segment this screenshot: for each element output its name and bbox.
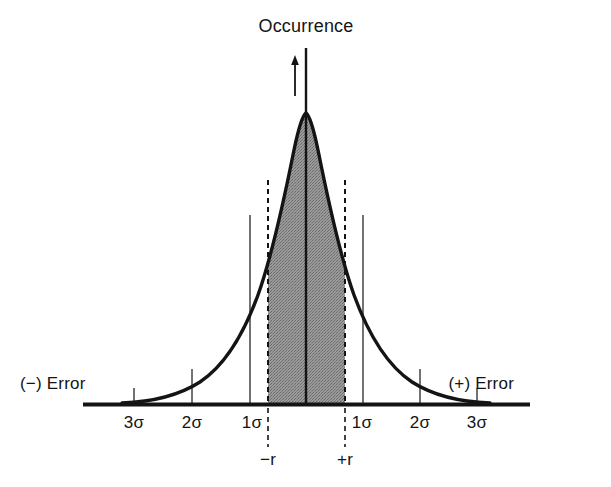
- page-title: Occurrence: [258, 16, 353, 36]
- marker-label-plus-r: +r: [337, 450, 353, 469]
- tick-label-plus-2sigma: 2σ: [410, 413, 431, 432]
- tick-label-plus-3sigma: 3σ: [467, 413, 488, 432]
- tick-label-minus-2sigma: 2σ: [182, 413, 203, 432]
- negative-error-label: (−) Error: [20, 374, 86, 393]
- positive-error-label: (+) Error: [448, 374, 514, 393]
- tick-label-minus-3sigma: 3σ: [124, 413, 145, 432]
- tick-label-minus-1sigma: 1σ: [242, 413, 263, 432]
- error-distribution-figure: Occurrence (−) Error (+) Error 3σ 2σ 1σ …: [0, 0, 611, 487]
- tick-label-plus-1sigma: 1σ: [352, 413, 373, 432]
- marker-label-minus-r: −r: [260, 450, 276, 469]
